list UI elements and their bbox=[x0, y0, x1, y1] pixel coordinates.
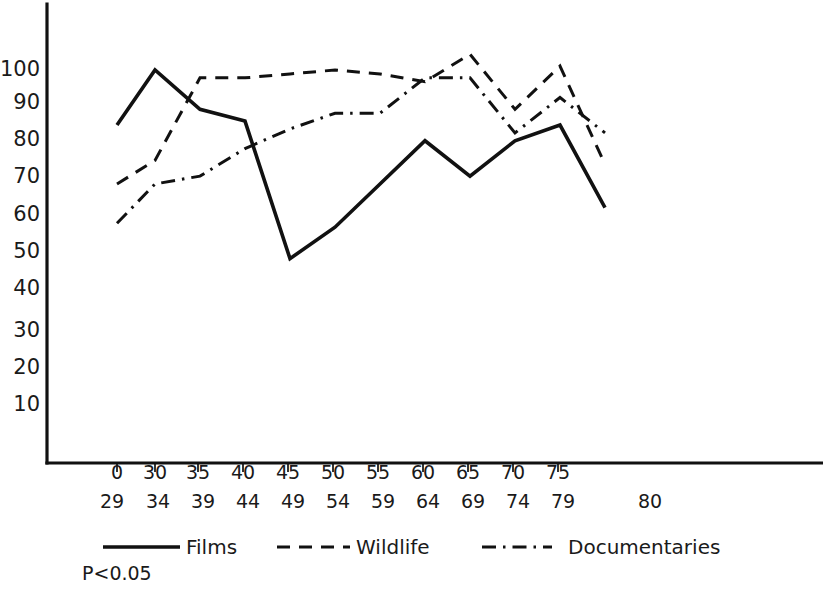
x-tick-label-top: 60 bbox=[411, 461, 435, 483]
legend-label-films: Films bbox=[186, 535, 237, 559]
x-tick-label-bottom: 44 bbox=[236, 490, 260, 512]
y-tick-label: 100 bbox=[0, 57, 40, 81]
x-tick-label-bottom: 49 bbox=[281, 490, 305, 512]
significance-footnote: P<0.05 bbox=[82, 562, 152, 584]
line-chart-figure: 100 90 80 70 60 50 40 30 20 10 bbox=[0, 0, 823, 597]
x-tick-label-bottom: 69 bbox=[461, 490, 485, 512]
y-tick-label: 90 bbox=[13, 90, 40, 114]
x-tick-label-bottom: 54 bbox=[326, 490, 350, 512]
x-tick-label-top: 70 bbox=[501, 461, 525, 483]
x-tick-label-top: 50 bbox=[321, 461, 345, 483]
y-tick-label: 30 bbox=[13, 318, 40, 342]
chart-container: 100 90 80 70 60 50 40 30 20 10 bbox=[0, 0, 823, 597]
x-tick-label-bottom: 80 bbox=[638, 490, 662, 512]
x-tick-label-top: 45 bbox=[276, 461, 300, 483]
x-tick-label-top: 40 bbox=[231, 461, 255, 483]
y-tick-label: 10 bbox=[13, 392, 40, 416]
x-tick-label-bottom: 74 bbox=[506, 490, 530, 512]
chart-legend: Films Wildlife Documentaries bbox=[103, 535, 720, 559]
x-tick-label-bottom: 39 bbox=[191, 490, 215, 512]
y-tick-label: 70 bbox=[13, 164, 40, 188]
x-tick-label-top: 75 bbox=[546, 461, 570, 483]
x-tick-label-top: 30 bbox=[143, 461, 167, 483]
x-tick-label-top: 55 bbox=[366, 461, 390, 483]
y-tick-label: 40 bbox=[13, 276, 40, 300]
y-tick-label: 60 bbox=[13, 202, 40, 226]
x-tick-label-top: 35 bbox=[186, 461, 210, 483]
x-tick-label-bottom: 34 bbox=[146, 490, 170, 512]
x-tick-label-bottom: 59 bbox=[371, 490, 395, 512]
y-tick-label: 20 bbox=[13, 355, 40, 379]
x-tick-label-bottom: 29 bbox=[100, 490, 124, 512]
y-tick-label: 80 bbox=[13, 127, 40, 151]
x-tick-label-bottom: 64 bbox=[416, 490, 440, 512]
x-tick-label-top: 0 bbox=[111, 461, 123, 483]
legend-label-documentaries: Documentaries bbox=[568, 535, 720, 559]
y-tick-label: 50 bbox=[13, 239, 40, 263]
x-tick-label-top: 65 bbox=[456, 461, 480, 483]
x-tick-label-bottom: 79 bbox=[551, 490, 575, 512]
legend-label-wildlife: Wildlife bbox=[356, 535, 430, 559]
